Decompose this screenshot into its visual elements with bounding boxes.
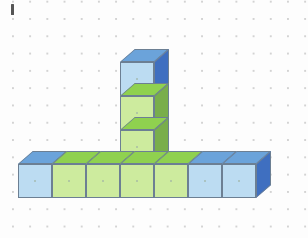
cube-base-2 (52, 151, 86, 185)
cube-col-3 (120, 49, 154, 83)
cube-front-face (18, 164, 52, 198)
cube-base-6 (188, 151, 222, 185)
cube-front-face (188, 164, 222, 198)
cube-front-face (86, 164, 120, 198)
cube-construction (0, 0, 308, 238)
cube-front-face (120, 164, 154, 198)
cube-col-2 (120, 83, 154, 117)
cube-base-5 (154, 151, 188, 185)
cube-front-face (154, 164, 188, 198)
cube-front-face (222, 164, 256, 198)
cube-front-face (52, 164, 86, 198)
cube-base-4 (120, 151, 154, 185)
figure-page: I Ilustrações: Banco de imagens/Arquivo … (0, 0, 308, 238)
cube-col-1 (120, 117, 154, 151)
cube-base-3 (86, 151, 120, 185)
cube-base-7 (222, 151, 256, 185)
cube-base-1 (18, 151, 52, 185)
